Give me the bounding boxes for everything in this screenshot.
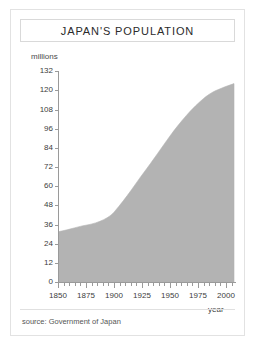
x-tick-minor-1965 xyxy=(187,283,188,286)
y-tick-60 xyxy=(55,186,59,187)
x-tick-1875 xyxy=(86,283,87,288)
x-tick-minor-1985 xyxy=(209,283,210,286)
y-tick-label-60: 60 xyxy=(27,182,53,190)
x-tick-minor-1885 xyxy=(97,283,98,286)
y-tick-label-132: 132 xyxy=(27,67,53,75)
chart-figure: JAPAN'S POPULATION millions 132 120 108 … xyxy=(10,9,245,336)
x-tick-minor-2005 xyxy=(232,283,233,286)
y-tick-36 xyxy=(55,225,59,226)
x-tick-minor-1890 xyxy=(103,283,104,286)
y-tick-96 xyxy=(55,129,59,130)
y-tick-120 xyxy=(55,90,59,91)
y-tick-24 xyxy=(55,244,59,245)
x-tick-minor-1970 xyxy=(192,283,193,286)
y-tick-label-96: 96 xyxy=(27,125,53,133)
y-tick-84 xyxy=(55,148,59,149)
x-tick-minor-1895 xyxy=(108,283,109,286)
x-tick-minor-1915 xyxy=(131,283,132,286)
x-tick-minor-1960 xyxy=(181,283,182,286)
y-tick-label-12: 12 xyxy=(27,259,53,267)
x-tick-minor-1945 xyxy=(164,283,165,286)
x-tick-minor-1990 xyxy=(215,283,216,286)
y-tick-label-72: 72 xyxy=(27,163,53,171)
x-tick-1925 xyxy=(142,283,143,288)
y-tick-label-48: 48 xyxy=(27,201,53,209)
x-tick-minor-1920 xyxy=(136,283,137,286)
y-tick-label-0: 0 xyxy=(27,278,53,286)
y-tick-12 xyxy=(55,263,59,264)
y-tick-label-108: 108 xyxy=(27,106,53,114)
y-tick-label-120: 120 xyxy=(27,86,53,94)
x-tick-minor-1910 xyxy=(125,283,126,286)
x-tick-minor-1865 xyxy=(75,283,76,286)
plot-area: 132 120 108 96 84 72 60 48 36 24 12 0 xyxy=(11,10,246,337)
x-tick-minor-1860 xyxy=(69,283,70,286)
source-divider xyxy=(20,309,235,310)
y-tick-108 xyxy=(55,110,59,111)
x-tick-1850 xyxy=(58,283,59,288)
y-tick-label-36: 36 xyxy=(27,221,53,229)
y-axis-line xyxy=(58,71,59,283)
population-area-series xyxy=(58,71,236,283)
x-tick-minor-1995 xyxy=(220,283,221,286)
x-tick-minor-1980 xyxy=(204,283,205,286)
x-tick-minor-1855 xyxy=(64,283,65,286)
x-tick-minor-1955 xyxy=(176,283,177,286)
y-tick-label-84: 84 xyxy=(27,144,53,152)
x-tick-minor-1935 xyxy=(153,283,154,286)
x-tick-1975 xyxy=(198,283,199,288)
y-tick-132 xyxy=(55,71,59,72)
x-tick-1900 xyxy=(114,283,115,288)
x-tick-minor-1870 xyxy=(80,283,81,286)
x-tick-minor-1930 xyxy=(148,283,149,286)
y-tick-label-24: 24 xyxy=(27,240,53,248)
y-tick-72 xyxy=(55,167,59,168)
x-tick-label-2000: 2000 xyxy=(206,291,246,300)
x-tick-minor-1940 xyxy=(159,283,160,286)
x-tick-1950 xyxy=(170,283,171,288)
source-note: source: Government of Japan xyxy=(22,317,121,326)
x-tick-minor-1880 xyxy=(92,283,93,286)
y-tick-48 xyxy=(55,205,59,206)
x-tick-minor-1905 xyxy=(120,283,121,286)
x-tick-2000 xyxy=(226,283,227,288)
